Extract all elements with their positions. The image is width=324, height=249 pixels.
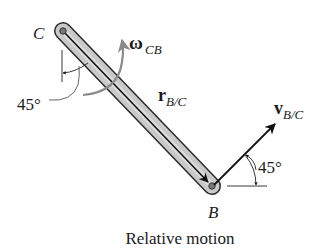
angle-arc-b <box>245 155 256 185</box>
point-c-label: C <box>33 24 45 43</box>
omega-symbol: ω <box>129 32 143 53</box>
point-b-label: B <box>208 203 219 222</box>
diagram-caption: Relative motion <box>125 229 235 248</box>
angle-label-b: 45° <box>258 158 282 177</box>
position-vector-subscript: B/C <box>166 94 187 109</box>
velocity-vector-symbol: v <box>274 98 283 118</box>
angle-leader-c <box>49 66 79 100</box>
pin-c-icon <box>60 28 66 34</box>
velocity-vector-subscript: B/C <box>283 107 304 122</box>
position-vector-symbol: r <box>158 85 166 105</box>
angle-arc-b-start <box>246 155 256 170</box>
omega-subscript: CB <box>145 42 162 57</box>
angle-label-c: 45° <box>17 95 41 114</box>
relative-motion-diagram: C B 45° 45° ω CB r B/C v B/C Relative mo… <box>0 0 324 249</box>
position-vector-arrow <box>63 31 208 182</box>
